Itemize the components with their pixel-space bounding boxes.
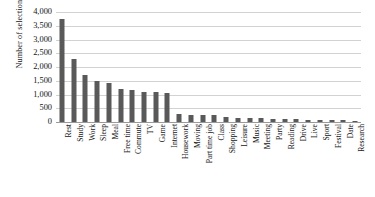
x-axis-tick-label: Commute <box>135 124 143 154</box>
x-axis-tick-label-text: Internet <box>171 124 179 148</box>
x-axis-tick-label: Moving <box>194 124 202 148</box>
x-axis-tick-label-text: Drive <box>300 124 308 141</box>
y-axis-tick: 0 <box>48 122 52 130</box>
x-axis-tick-label-text: Work <box>89 124 97 141</box>
bar-slot <box>162 12 174 122</box>
bar <box>235 118 240 122</box>
x-axis-tick-label: Free time <box>124 124 132 153</box>
y-axis-tick: 3,000 <box>33 40 52 48</box>
bar-slot <box>209 12 221 122</box>
x-axis-tick-label-text: Rest <box>65 124 73 138</box>
axis-baseline <box>56 122 361 123</box>
x-axis-tick-label: Leisure <box>241 124 249 147</box>
x-axis-tick-label: Live <box>311 124 319 138</box>
x-axis-tick-label: Game <box>159 124 167 142</box>
x-axis-tick-label-text: Live <box>311 124 319 138</box>
bar <box>83 75 88 122</box>
bar <box>294 119 299 122</box>
y-axis-tick-label: 2,000 <box>33 63 52 71</box>
y-axis-tick: 1,500 <box>33 81 52 89</box>
bar-slot <box>314 12 326 122</box>
bar <box>329 120 334 122</box>
bar-slot <box>68 12 80 122</box>
y-axis-tick-label: 2,500 <box>33 49 52 57</box>
x-axis-tick-label-text: Sport <box>323 124 331 140</box>
bar-slot <box>150 12 162 122</box>
x-axis-tick-label-text: Party <box>276 124 284 140</box>
x-axis-tick-label-text: Game <box>159 124 167 142</box>
x-axis-tick-label: Date <box>347 124 355 138</box>
x-axis-tick-label-text: Meal <box>112 124 120 140</box>
y-axis-tick: 1,000 <box>33 95 52 103</box>
bar-slot <box>115 12 127 122</box>
bar <box>141 92 146 122</box>
bar-slot <box>197 12 209 122</box>
bar-slot <box>56 12 68 122</box>
x-axis-tick-label: TV <box>147 124 155 134</box>
x-axis-tick-label: Meeting <box>264 124 272 149</box>
x-axis-tick-label-text: Date <box>347 124 355 138</box>
bar <box>341 120 346 122</box>
bar-slot <box>291 12 303 122</box>
bar <box>95 81 100 122</box>
x-axis-tick-label: Party <box>276 124 284 140</box>
x-axis-tick-label-text: Music <box>253 124 261 143</box>
bar <box>130 90 135 122</box>
x-axis-tick-label-text: Class <box>218 124 226 140</box>
bar-slot <box>126 12 138 122</box>
y-axis-tick: 4,000 <box>33 12 52 20</box>
x-axis-tick-label: Festival <box>335 124 343 148</box>
bar <box>153 92 158 122</box>
x-axis-tick-label-text: Festival <box>335 124 343 148</box>
x-axis-tick-label-text: Meeting <box>264 124 272 149</box>
bar <box>306 120 311 122</box>
x-axis-tick-labels: RestStudyWorkSleepMealFree timeCommuteTV… <box>56 124 361 197</box>
x-axis-tick-label: Sport <box>323 124 331 140</box>
x-axis-tick-label-text: Housework <box>182 124 190 159</box>
y-axis-tick: 2,500 <box>33 53 52 61</box>
x-axis-tick-label-text: TV <box>147 124 155 134</box>
x-axis-tick-label-text: Sleep <box>100 124 108 141</box>
bar <box>200 115 205 122</box>
x-axis-tick-label: Rest <box>65 124 73 138</box>
bar <box>259 118 264 122</box>
x-axis-tick-label-text: Shopping <box>229 124 237 153</box>
bar-slot <box>279 12 291 122</box>
bar-slot <box>232 12 244 122</box>
x-axis-tick-label: Music <box>253 124 261 143</box>
bar <box>282 119 287 122</box>
bar <box>118 89 123 122</box>
bar <box>165 93 170 122</box>
x-axis-tick-label: Reading <box>288 124 296 149</box>
bar-slot <box>185 12 197 122</box>
y-axis-tick-label: 1,500 <box>33 77 52 85</box>
y-axis-tick-label: 4,000 <box>33 8 52 16</box>
bar <box>271 119 276 122</box>
bar <box>71 59 76 122</box>
x-axis-tick-label: Internet <box>171 124 179 148</box>
bar-slot <box>267 12 279 122</box>
bar <box>212 115 217 122</box>
x-axis-tick-label: Shopping <box>229 124 237 153</box>
y-axis-tick-labels: 4,0003,5003,0002,5002,0001,5001,0005000 <box>0 0 56 134</box>
y-axis-tick: 500 <box>39 108 52 116</box>
x-axis-tick-label-text: Moving <box>194 124 202 148</box>
x-axis-tick-label-text: Leisure <box>241 124 249 147</box>
bar <box>177 114 182 122</box>
x-axis-tick-label: Housework <box>182 124 190 159</box>
bar <box>247 118 252 122</box>
x-axis-tick-label: Research <box>358 124 366 152</box>
x-axis-tick-label-text: Research <box>358 124 366 152</box>
y-axis-tick-label: 1,000 <box>33 90 52 98</box>
x-axis-tick-label: Work <box>89 124 97 141</box>
x-axis-tick-label: Sleep <box>100 124 108 141</box>
bar <box>317 120 322 122</box>
bar-slot <box>91 12 103 122</box>
x-axis-tick-label-text: Part time job <box>206 124 214 163</box>
bar-slot <box>338 12 350 122</box>
bar <box>59 19 64 122</box>
x-axis-tick-label: Drive <box>300 124 308 141</box>
x-axis-tick-label: Meal <box>112 124 120 140</box>
bar <box>353 121 358 122</box>
y-axis-tick: 2,000 <box>33 67 52 75</box>
